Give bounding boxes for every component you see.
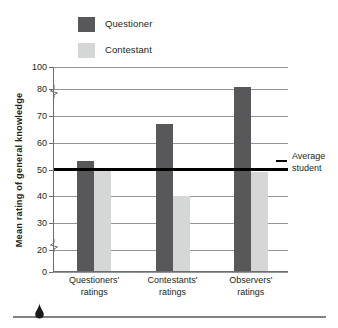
- category-label-1-line0: Contestants': [133, 275, 211, 287]
- average-student-line2: student: [292, 163, 325, 175]
- category-label-1-line1: ratings: [133, 287, 211, 299]
- gridline-70: [53, 116, 288, 117]
- teardrop-icon: [33, 303, 46, 319]
- plot-area: 020304050607080100 Questioners'ratingsCo…: [53, 67, 288, 272]
- average-student-annotation: Average student: [292, 151, 325, 174]
- legend-item-contestant: Contestant: [78, 40, 152, 60]
- chart-figure: Questioner Contestant Mean rating of gen…: [0, 0, 338, 328]
- y-tick-0: [49, 272, 54, 273]
- category-label-1: Contestants'ratings: [133, 275, 211, 298]
- legend-swatch-questioner: [78, 17, 95, 32]
- y-tick-label-80: 80: [37, 85, 47, 94]
- y-tick-label-30: 30: [37, 219, 47, 228]
- gridline-0: [53, 272, 288, 273]
- chart-legend: Questioner Contestant: [78, 14, 152, 66]
- category-label-0-line1: ratings: [55, 287, 133, 299]
- bar-contestant-2: [251, 172, 268, 272]
- y-axis-title-text: Mean rating of general knowledge: [14, 92, 24, 247]
- y-tick-label-20: 20: [37, 246, 47, 255]
- y-tick-label-40: 40: [37, 192, 47, 201]
- y-tick-label-100: 100: [32, 63, 47, 72]
- bar-questioner-0: [77, 161, 94, 272]
- legend-item-questioner: Questioner: [78, 14, 152, 34]
- footer-rule: [13, 316, 326, 318]
- y-tick-label-0: 0: [42, 268, 47, 277]
- x-axis-line: [53, 271, 288, 272]
- average-student-line-marker: [276, 160, 287, 162]
- bar-contestant-1: [173, 196, 190, 272]
- y-tick-label-60: 60: [37, 138, 47, 147]
- bar-questioner-2: [234, 87, 251, 272]
- y-axis-line: [53, 67, 54, 272]
- bar-questioner-1: [156, 124, 173, 272]
- legend-label-questioner: Questioner: [105, 19, 152, 29]
- y-tick-label-50: 50: [37, 165, 47, 174]
- bar-contestant-0: [94, 170, 111, 273]
- category-label-2: Observers'ratings: [212, 275, 290, 298]
- average-student-gridline: [53, 168, 288, 170]
- y-tick-label-70: 70: [37, 111, 47, 120]
- legend-swatch-contestant: [78, 43, 95, 58]
- category-label-0-line0: Questioners': [55, 275, 133, 287]
- category-label-2-line0: Observers': [212, 275, 290, 287]
- y-axis-title: Mean rating of general knowledge: [12, 67, 26, 272]
- category-label-0: Questioners'ratings: [55, 275, 133, 298]
- legend-label-contestant: Contestant: [105, 45, 152, 55]
- gridline-100: [53, 67, 288, 68]
- gridline-80: [53, 89, 288, 90]
- category-label-2-line1: ratings: [212, 287, 290, 299]
- average-student-line1: Average: [292, 151, 325, 163]
